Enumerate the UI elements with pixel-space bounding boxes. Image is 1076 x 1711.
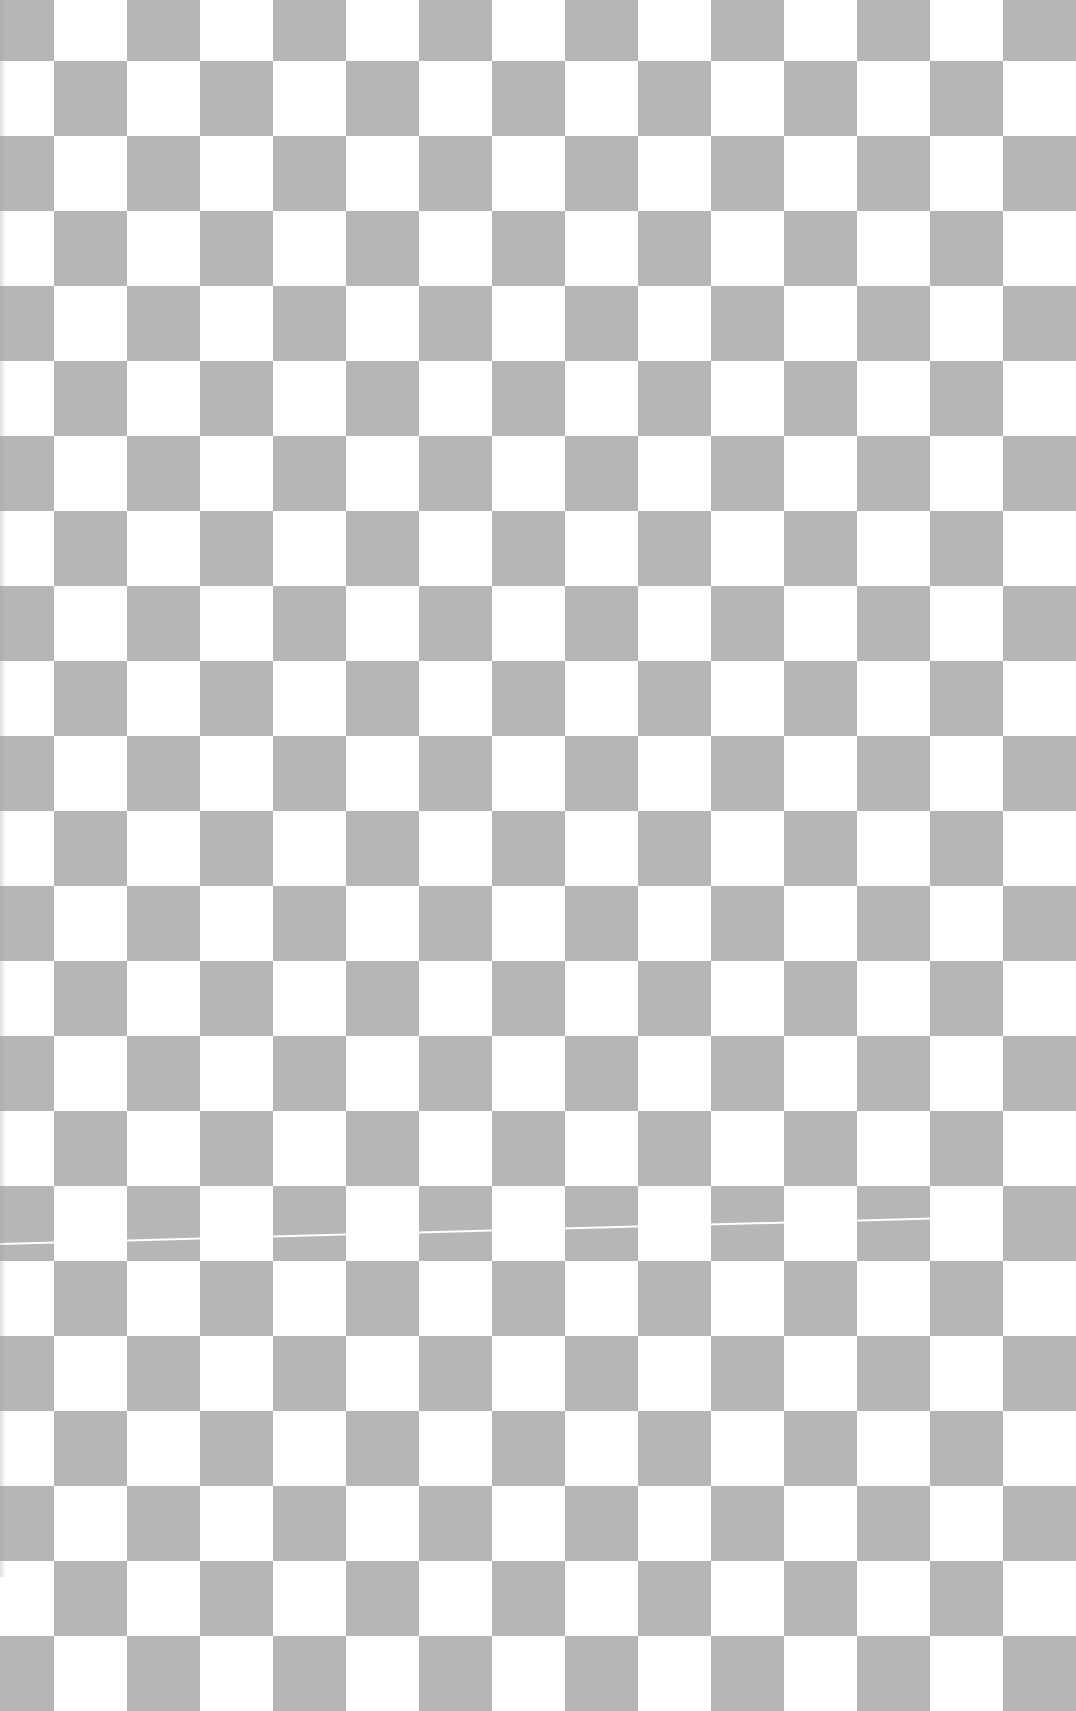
checker-square: [346, 361, 419, 436]
checker-square: [346, 811, 419, 886]
checker-square: [273, 1636, 346, 1711]
checker-square: [711, 136, 784, 211]
checker-square: [857, 436, 930, 511]
checker-square: [346, 661, 419, 736]
checker-square: [273, 286, 346, 361]
checker-square: [930, 1111, 1003, 1186]
checker-square: [565, 586, 638, 661]
checker-square: [711, 586, 784, 661]
checker-square: [127, 1186, 200, 1261]
checker-square: [857, 886, 930, 961]
checker-square: [565, 1336, 638, 1411]
checker-square: [0, 0, 54, 61]
checker-square: [857, 1036, 930, 1111]
checker-square: [200, 1561, 273, 1636]
checker-square: [127, 1036, 200, 1111]
checker-square: [0, 136, 54, 211]
checker-square: [492, 1561, 565, 1636]
checker-square: [0, 436, 54, 511]
checker-square: [711, 1036, 784, 1111]
checker-square: [54, 361, 127, 436]
checker-square: [54, 61, 127, 136]
checker-square: [857, 586, 930, 661]
checker-square: [346, 211, 419, 286]
checker-square: [1003, 1036, 1076, 1111]
checker-square: [930, 61, 1003, 136]
checker-square: [127, 886, 200, 961]
checker-square: [1003, 736, 1076, 811]
checker-square: [565, 736, 638, 811]
checker-square: [346, 1111, 419, 1186]
checker-square: [127, 586, 200, 661]
checker-square: [273, 886, 346, 961]
checker-square: [857, 0, 930, 61]
checker-square: [1003, 1636, 1076, 1711]
checker-square: [419, 886, 492, 961]
checker-square: [54, 1411, 127, 1486]
checker-square: [200, 1261, 273, 1336]
checker-square: [857, 736, 930, 811]
checker-square: [419, 286, 492, 361]
checker-square: [784, 1561, 857, 1636]
checker-square: [273, 1486, 346, 1561]
checker-square: [565, 886, 638, 961]
checker-square: [930, 1261, 1003, 1336]
checker-square: [565, 286, 638, 361]
checker-square: [857, 1336, 930, 1411]
checker-square: [638, 361, 711, 436]
checker-square: [711, 736, 784, 811]
checker-square: [784, 1111, 857, 1186]
checker-square: [54, 661, 127, 736]
checker-square: [492, 661, 565, 736]
checker-square: [492, 1111, 565, 1186]
checker-square: [565, 1636, 638, 1711]
checker-square: [346, 61, 419, 136]
checker-square: [1003, 886, 1076, 961]
checker-square: [711, 0, 784, 61]
checker-square: [273, 1336, 346, 1411]
checker-square: [0, 1486, 54, 1561]
checker-square: [200, 511, 273, 586]
checker-square: [784, 211, 857, 286]
checker-square: [0, 1036, 54, 1111]
checker-square: [492, 61, 565, 136]
checker-square: [1003, 436, 1076, 511]
checker-square: [930, 661, 1003, 736]
checker-square: [1003, 1336, 1076, 1411]
checker-square: [346, 1261, 419, 1336]
checker-square: [127, 136, 200, 211]
checker-square: [127, 436, 200, 511]
checker-square: [1003, 1486, 1076, 1561]
checker-square: [127, 1636, 200, 1711]
checker-square: [492, 511, 565, 586]
checker-square: [492, 361, 565, 436]
checker-square: [492, 961, 565, 1036]
left-edge-shadow: [0, 0, 6, 1577]
checker-square: [638, 1111, 711, 1186]
checker-square: [784, 61, 857, 136]
checker-square: [419, 0, 492, 61]
checker-square: [1003, 286, 1076, 361]
checker-square: [857, 286, 930, 361]
checker-square: [711, 436, 784, 511]
checker-square: [54, 1561, 127, 1636]
checker-square: [0, 736, 54, 811]
checker-square: [54, 211, 127, 286]
checker-square: [273, 736, 346, 811]
checker-square: [638, 1411, 711, 1486]
checker-square: [200, 961, 273, 1036]
checker-square: [565, 1186, 638, 1261]
checker-square: [419, 736, 492, 811]
checker-square: [273, 136, 346, 211]
checker-square: [638, 661, 711, 736]
checker-square: [638, 211, 711, 286]
checker-square: [419, 436, 492, 511]
checker-square: [346, 1561, 419, 1636]
checker-square: [711, 1636, 784, 1711]
checker-square: [273, 1186, 346, 1261]
checker-square: [419, 1486, 492, 1561]
checker-square: [857, 1186, 930, 1261]
checker-square: [857, 1636, 930, 1711]
checker-square: [200, 361, 273, 436]
checker-square: [419, 1636, 492, 1711]
